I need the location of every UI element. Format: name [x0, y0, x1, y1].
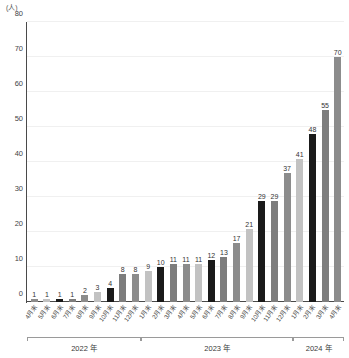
bar[interactable]: 55: [322, 110, 329, 303]
bar-slot: 12: [205, 22, 218, 302]
year-rule: [27, 337, 141, 338]
bar[interactable]: 29: [258, 201, 265, 303]
bar-value-label: 12: [207, 252, 215, 259]
x-label-slot: 6月末: [205, 303, 218, 337]
bar[interactable]: 9: [145, 271, 152, 303]
x-axis-labels: 4月末5月末6月末7月末8月末9月末10月末11月末12月末1月末2月末3月末4…: [27, 303, 344, 337]
bar-slot: 11: [167, 22, 180, 302]
bar-value-label: 70: [334, 49, 342, 56]
bar-slot: 1: [28, 22, 41, 302]
bar-value-label: 1: [45, 291, 49, 298]
bar[interactable]: 11: [170, 264, 177, 303]
bar[interactable]: 29: [271, 201, 278, 303]
bar-value-label: 37: [283, 165, 291, 172]
bar-slot: 55: [319, 22, 332, 302]
bar-slot: 1: [53, 22, 66, 302]
bar-value-label: 1: [32, 291, 36, 298]
year-label: 2023 年: [141, 342, 293, 353]
bar-slot: 21: [243, 22, 256, 302]
year-group-axis: 2022 年2023 年2024 年: [27, 337, 344, 358]
y-tick-label: 60: [15, 79, 23, 88]
bar[interactable]: 1: [31, 299, 38, 303]
bar-slot: 1: [41, 22, 54, 302]
x-label-slot: 3月末: [167, 303, 180, 337]
x-label-slot: 2月末: [306, 303, 319, 337]
x-label-slot: 5月末: [41, 303, 54, 337]
x-label-slot: 4月末: [331, 303, 344, 337]
bar-slot: 29: [268, 22, 281, 302]
bar-value-label: 48: [309, 126, 317, 133]
x-label-slot: 5月末: [192, 303, 205, 337]
bar[interactable]: 41: [296, 159, 303, 303]
y-tick-label: 0: [19, 289, 23, 298]
bar[interactable]: 13: [220, 257, 227, 303]
x-label-slot: 8月末: [230, 303, 243, 337]
bar[interactable]: 4: [107, 288, 114, 302]
bar[interactable]: 48: [309, 134, 316, 302]
bar-slot: 1: [66, 22, 79, 302]
bar-value-label: 9: [146, 263, 150, 270]
bar[interactable]: 21: [246, 229, 253, 303]
bar[interactable]: 10: [157, 267, 164, 302]
bar-slot: 8: [116, 22, 129, 302]
year-label: 2024 年: [293, 342, 344, 353]
bar-value-label: 17: [233, 235, 241, 242]
bar-value-label: 21: [245, 221, 253, 228]
x-label-slot: 4月末: [28, 303, 41, 337]
bar-value-label: 3: [96, 284, 100, 291]
bar[interactable]: 17: [233, 243, 240, 303]
bar[interactable]: 2: [81, 295, 88, 302]
bar-value-label: 55: [321, 102, 329, 109]
year-group: 2023 年: [141, 337, 293, 358]
x-label-slot: 3月末: [319, 303, 332, 337]
x-label-slot: 8月末: [79, 303, 92, 337]
y-tick-label: 50: [15, 114, 23, 123]
x-label-slot: 1月末: [142, 303, 155, 337]
bar-value-label: 8: [121, 266, 125, 273]
y-tick-label: 20: [15, 219, 23, 228]
x-label-slot: 2月末: [154, 303, 167, 337]
x-label-slot: 1月末: [293, 303, 306, 337]
bar-value-label: 11: [182, 256, 189, 263]
bar-slot: 2: [79, 22, 92, 302]
bar-value-label: 1: [58, 291, 62, 298]
bar-chart: (人) 01020304050607080 111123488910111111…: [0, 0, 349, 358]
bar[interactable]: 11: [183, 264, 190, 303]
x-label-slot: 4月末: [180, 303, 193, 337]
bar-slot: 10: [154, 22, 167, 302]
bar[interactable]: 1: [69, 299, 76, 303]
bar-value-label: 10: [157, 259, 165, 266]
year-cap-left: [27, 337, 28, 341]
bar-slot: 3: [91, 22, 104, 302]
year-group: 2022 年: [27, 337, 141, 358]
bar-slot: 9: [142, 22, 155, 302]
bar[interactable]: 8: [132, 274, 139, 302]
x-label-slot: 7月末: [66, 303, 79, 337]
bar-slot: 13: [218, 22, 231, 302]
bar[interactable]: 8: [119, 274, 126, 302]
year-rule: [293, 337, 344, 338]
bar-value-label: 41: [296, 151, 304, 158]
bar-value-label: 11: [170, 256, 177, 263]
bar[interactable]: 11: [195, 264, 202, 303]
bar-slot: 11: [180, 22, 193, 302]
bar-value-label: 13: [220, 249, 228, 256]
bar-slot: 8: [129, 22, 142, 302]
bar-slot: 48: [306, 22, 319, 302]
bar[interactable]: 70: [334, 57, 341, 302]
year-rule: [141, 337, 293, 338]
bar-value-label: 2: [83, 287, 87, 294]
bar[interactable]: 1: [43, 299, 50, 303]
y-tick-label: 70: [15, 44, 23, 53]
x-label-slot: 7月末: [218, 303, 231, 337]
year-cap-left: [141, 337, 142, 341]
bar[interactable]: 1: [56, 299, 63, 303]
bar-slot: 70: [331, 22, 344, 302]
y-tick-label: 40: [15, 149, 23, 158]
bar[interactable]: 37: [284, 173, 291, 303]
bar[interactable]: 12: [208, 260, 215, 302]
bar-slot: 29: [256, 22, 269, 302]
year-group: 2024 年: [293, 337, 344, 358]
bar-slot: 17: [230, 22, 243, 302]
bar[interactable]: 3: [94, 292, 101, 303]
